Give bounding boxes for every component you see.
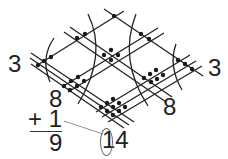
left-count-label: 3 [8, 52, 21, 76]
carry-circle-mark [100, 128, 113, 156]
sum-result-label: 9 [49, 131, 62, 155]
right-cluster-label: 8 [163, 95, 176, 119]
separator-arcs [46, 14, 182, 106]
plus-carry-label: + 1 [28, 107, 62, 131]
carry-arrow-line [64, 121, 103, 134]
right-count-label: 3 [208, 56, 221, 80]
